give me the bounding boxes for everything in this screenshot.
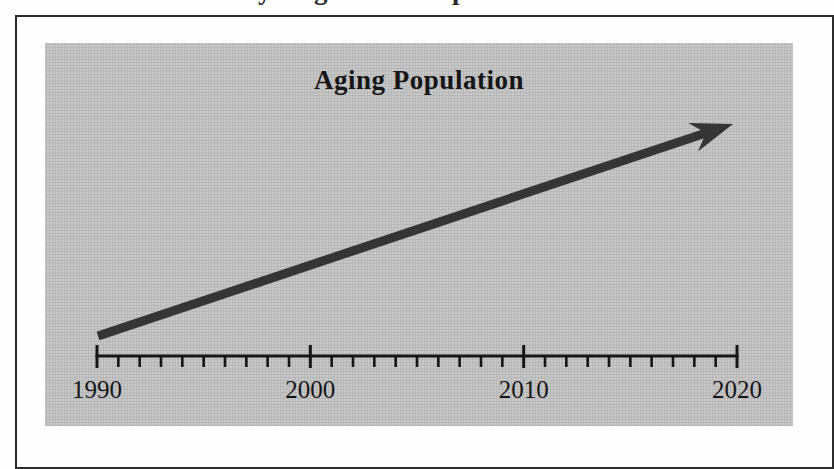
trend-arrow-chart: 1990200020102020 [45,43,793,426]
axis-tick-label: 2000 [285,376,335,403]
cropped-caption-text: ygp [0,0,819,9]
cropped-caption-fragment: y [258,0,272,6]
trend-arrow-shaft [98,133,706,336]
cropped-caption-fragment: p [452,0,467,6]
axis-tick-label: 2010 [499,376,549,403]
figure-panel: Aging Population 1990200020102020 [45,43,793,426]
axis-tick-label: 1990 [72,376,122,403]
axis-tick-label: 2020 [712,376,762,403]
cropped-caption-fragment: g [314,0,328,6]
